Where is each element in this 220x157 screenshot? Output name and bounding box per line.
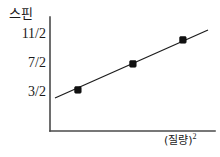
data-point-2 <box>130 61 137 68</box>
y-tick-label-7-2: 7/2 <box>2 56 46 70</box>
y-axis-label: 스핀 <box>9 7 33 20</box>
y-tick-label-11-2: 11/2 <box>2 27 46 41</box>
data-point-3 <box>180 37 187 44</box>
x-axis-label: (질량)2 <box>164 133 197 146</box>
x-axis-label-base: (질량) <box>164 134 193 147</box>
y-tick-label-3-2: 3/2 <box>2 85 46 99</box>
chart-figure: 스핀 11/2 7/2 3/2 (질량)2 <box>0 0 220 157</box>
x-axis-label-exponent: 2 <box>193 132 197 141</box>
axes <box>50 17 215 131</box>
data-point-1 <box>75 87 82 94</box>
data-points <box>75 37 187 94</box>
